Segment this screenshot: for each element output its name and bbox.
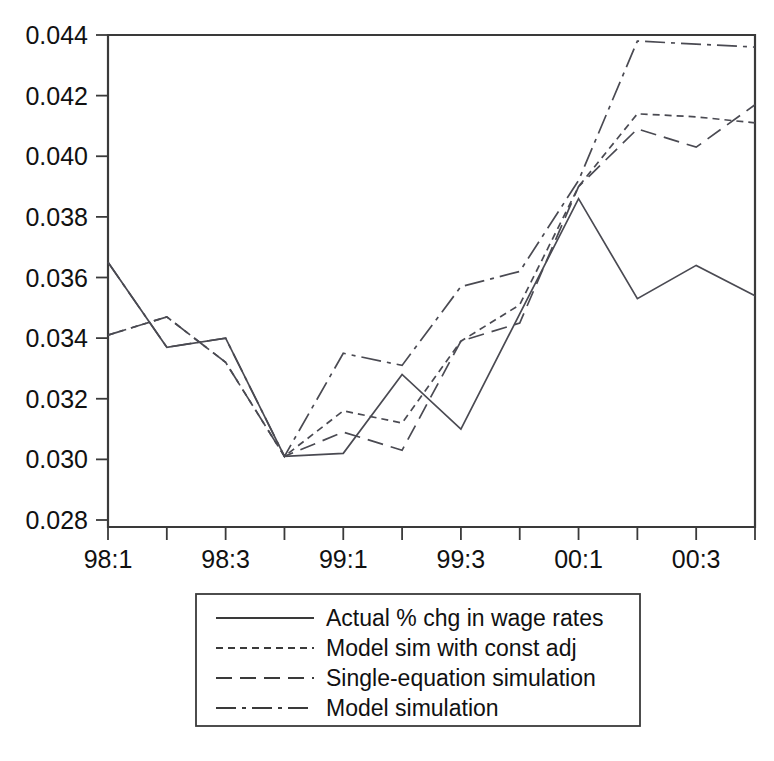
y-axis-tick-label: 0.042 [25, 82, 88, 110]
x-axis-tick-label: 98:3 [201, 545, 250, 573]
legend-label-1: Model sim with const adj [326, 635, 577, 661]
legend-label-2: Single-equation simulation [326, 665, 596, 691]
y-axis-tick-label: 0.040 [25, 142, 88, 170]
x-axis-tick-label: 00:3 [672, 545, 721, 573]
y-axis-tick-label: 0.038 [25, 203, 88, 231]
y-axis-tick-label: 0.036 [25, 264, 88, 292]
y-axis-tick-label: 0.028 [25, 506, 88, 534]
legend-label-0: Actual % chg in wage rates [326, 605, 603, 631]
x-axis-tick-label: 99:1 [319, 545, 368, 573]
legend-label-3: Model simulation [326, 695, 499, 721]
x-axis-tick-label: 00:1 [554, 545, 603, 573]
y-axis-tick-label: 0.044 [25, 21, 88, 49]
x-axis-tick-label: 98:1 [84, 545, 133, 573]
y-axis-tick-label: 0.030 [25, 445, 88, 473]
wage-rate-line-chart: 0.0280.0300.0320.0340.0360.0380.0400.042… [0, 0, 774, 761]
y-axis-tick-label: 0.034 [25, 324, 88, 352]
y-axis-tick-label: 0.032 [25, 385, 88, 413]
chart-figure: 0.0280.0300.0320.0340.0360.0380.0400.042… [0, 0, 774, 761]
chart-legend: Actual % chg in wage ratesModel sim with… [196, 594, 640, 726]
x-axis-tick-label: 99:3 [437, 545, 486, 573]
